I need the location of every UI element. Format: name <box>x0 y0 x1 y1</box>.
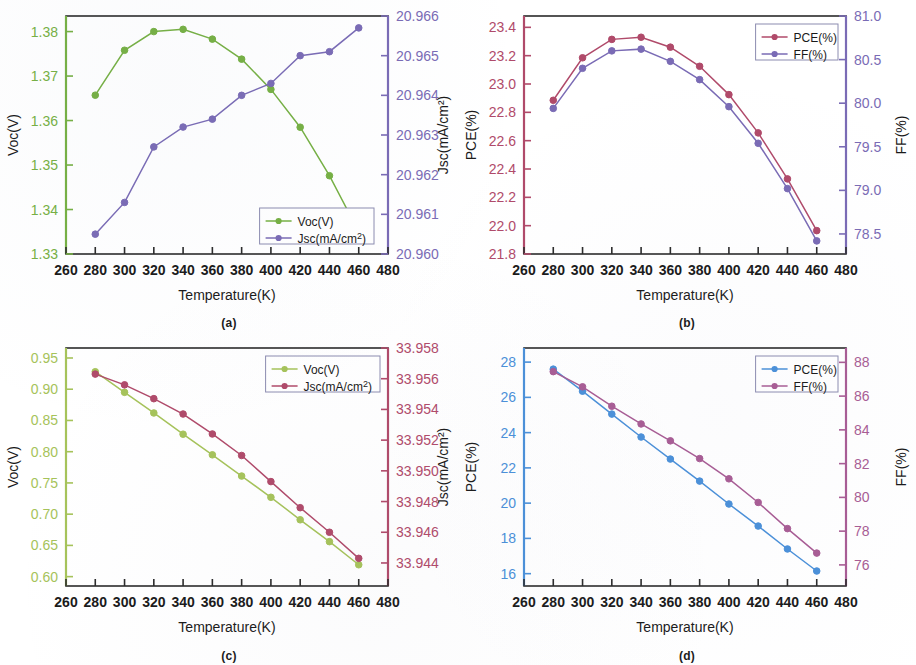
data-point-marker <box>667 456 674 463</box>
x-tick-label: 300 <box>571 262 595 278</box>
legend: PCE(%)FF(%) <box>756 356 838 394</box>
data-point-marker <box>209 116 216 123</box>
data-point-marker <box>151 395 158 402</box>
y-tick-label: 33.954 <box>396 401 439 417</box>
data-point-marker <box>696 455 703 462</box>
x-tick-label: 360 <box>659 594 683 610</box>
data-point-marker <box>638 421 645 428</box>
panel-d-caption: (d) <box>458 649 916 663</box>
y-tick-label: 88 <box>854 354 870 370</box>
panel-b-caption: (b) <box>458 316 916 330</box>
plot-c: 260280300320340360380400420440460480Temp… <box>0 332 458 664</box>
data-point-marker <box>268 494 275 501</box>
data-point-marker <box>92 231 99 238</box>
y-tick-label: 22.2 <box>489 189 516 205</box>
x-tick-label: 260 <box>54 262 78 278</box>
x-axis-title: Temperature(K) <box>178 619 275 635</box>
data-point-marker <box>609 411 616 418</box>
data-point-marker <box>326 538 333 545</box>
y-tick-label: 84 <box>854 422 870 438</box>
panel-a-caption: (a) <box>0 316 458 330</box>
x-tick-label: 480 <box>376 594 400 610</box>
x-tick-label: 400 <box>717 594 741 610</box>
x-tick-label: 420 <box>289 594 313 610</box>
x-tick-label: 320 <box>600 594 624 610</box>
data-point-marker <box>326 172 333 179</box>
y-tick-label: 28 <box>500 354 516 370</box>
y-tick-label: 0.90 <box>31 381 58 397</box>
data-point-marker <box>813 550 820 557</box>
data-point-marker <box>326 529 333 536</box>
x-tick-label: 300 <box>113 262 137 278</box>
x-tick-label: 480 <box>834 262 858 278</box>
data-point-marker <box>297 516 304 523</box>
y-tick-label: 76 <box>854 557 870 573</box>
plot-a: 260280300320340360380400420440460480Temp… <box>0 0 458 332</box>
data-point-marker <box>755 140 762 147</box>
data-point-marker <box>550 97 557 104</box>
panel-c-caption: (c) <box>0 649 458 663</box>
x-tick-label: 480 <box>834 594 858 610</box>
x-tick-label: 440 <box>318 594 342 610</box>
data-point-marker <box>609 403 616 410</box>
data-point-marker <box>209 431 216 438</box>
x-tick-label: 420 <box>747 594 771 610</box>
data-point-marker <box>326 48 333 55</box>
y-tick-label: 0.85 <box>31 412 58 428</box>
x-tick-label: 400 <box>717 262 741 278</box>
x-tick-label: 340 <box>171 594 195 610</box>
data-point-marker <box>92 371 99 378</box>
data-point-marker <box>813 238 820 245</box>
x-tick-label: 380 <box>230 262 254 278</box>
x-tick-label: 460 <box>805 262 829 278</box>
data-point-marker <box>550 368 557 375</box>
data-point-marker <box>784 185 791 192</box>
x-tick-label: 320 <box>142 262 166 278</box>
legend-label: Voc(V) <box>298 215 334 229</box>
y-tick-label: 22.4 <box>489 161 516 177</box>
y-tick-label: 33.948 <box>396 494 439 510</box>
y-tick-label: 22.6 <box>489 133 516 149</box>
data-point-marker <box>696 478 703 485</box>
x-tick-label: 360 <box>659 262 683 278</box>
plot-d: 260280300320340360380400420440460480Temp… <box>458 332 916 664</box>
data-point-marker <box>121 389 128 396</box>
y-tick-label: 0.65 <box>31 537 58 553</box>
y-tick-label: 1.36 <box>31 113 58 129</box>
data-point-marker <box>813 227 820 234</box>
x-axis-title: Temperature(K) <box>636 619 733 635</box>
left-axis-title: PCE(%) <box>463 442 479 493</box>
series-line <box>95 372 358 565</box>
right-axis-title: Jsc(mA/cm²) <box>435 96 451 175</box>
y-tick-label: 1.34 <box>31 202 58 218</box>
data-point-marker <box>238 92 245 99</box>
left-axis-title: Voc(V) <box>5 114 21 156</box>
data-point-marker <box>268 80 275 87</box>
right-axis-title: Jsc(mA/cm²) <box>435 428 451 507</box>
data-point-marker <box>726 103 733 110</box>
data-point-marker <box>667 44 674 51</box>
legend: Voc(V)Jsc(mA/cm2) <box>260 208 374 246</box>
y-tick-label: 21.8 <box>489 246 516 262</box>
x-tick-label: 300 <box>113 594 137 610</box>
legend: PCE(%)FF(%) <box>756 24 838 62</box>
y-tick-label: 20.965 <box>396 48 439 64</box>
y-tick-label: 24 <box>500 425 516 441</box>
data-point-marker <box>667 438 674 445</box>
data-point-marker <box>784 176 791 183</box>
y-tick-label: 20.963 <box>396 127 439 143</box>
legend-swatch-marker <box>772 366 778 372</box>
data-point-marker <box>355 555 362 562</box>
x-tick-label: 400 <box>259 594 283 610</box>
data-point-marker <box>726 501 733 508</box>
y-tick-label: 1.35 <box>31 157 58 173</box>
legend-swatch-marker <box>772 34 778 40</box>
x-tick-label: 300 <box>571 594 595 610</box>
data-point-marker <box>238 452 245 459</box>
y-tick-label: 20 <box>500 495 516 511</box>
x-tick-label: 360 <box>201 594 225 610</box>
figure-grid: 260280300320340360380400420440460480Temp… <box>0 0 916 665</box>
x-tick-label: 380 <box>688 594 712 610</box>
data-point-marker <box>297 52 304 59</box>
y-tick-label: 20.964 <box>396 87 439 103</box>
